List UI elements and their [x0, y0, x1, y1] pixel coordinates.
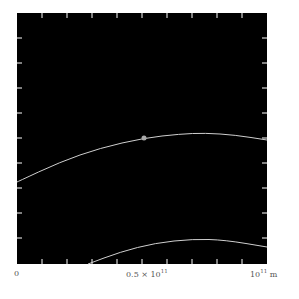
x-tick-label-0: 0	[14, 269, 19, 278]
x-tick-label-max: 1011 m	[250, 268, 277, 279]
mid-exp: 11	[161, 268, 168, 274]
x-tick-label-mid: 0.5 × 1011	[126, 268, 168, 279]
position-marker	[142, 136, 147, 141]
max-base: 10	[250, 270, 260, 279]
unit: m	[267, 270, 277, 279]
mid-base: 0.5 × 10	[126, 270, 161, 279]
trajectory-plot	[0, 0, 299, 299]
